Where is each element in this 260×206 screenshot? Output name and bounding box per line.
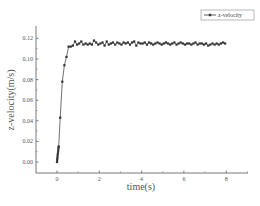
data-point-marker: [91, 44, 93, 46]
data-point-marker: [142, 42, 144, 44]
data-point-marker: [144, 41, 146, 43]
x-tick-label: 0: [56, 176, 59, 182]
legend-label: z-velocity: [218, 12, 242, 18]
data-point-marker: [70, 46, 72, 48]
data-point-marker: [95, 41, 97, 43]
data-point-marker: [154, 42, 156, 44]
data-point-marker: [190, 44, 192, 46]
series-z-velocity: [56, 39, 226, 163]
data-point-marker: [209, 44, 211, 46]
data-point-marker: [74, 40, 76, 42]
data-point-marker: [178, 42, 180, 44]
data-point-marker: [216, 42, 218, 44]
data-point-marker: [57, 149, 59, 151]
data-point-marker: [108, 44, 110, 46]
legend-marker-icon: [209, 14, 211, 16]
data-point-marker: [56, 159, 58, 161]
data-point-marker: [56, 157, 58, 159]
data-point-marker: [110, 42, 112, 44]
data-point-marker: [89, 42, 91, 44]
data-point-marker: [120, 44, 122, 46]
y-tick-label: 0.10: [23, 56, 34, 62]
y-tick-label: 0.04: [23, 118, 34, 124]
data-point-marker: [192, 42, 194, 44]
data-point-marker: [82, 44, 84, 46]
data-point-marker: [59, 117, 61, 119]
x-tick-label: 6: [182, 176, 185, 182]
data-point-marker: [161, 44, 163, 46]
data-point-marker: [194, 41, 196, 43]
data-point-marker: [68, 46, 70, 48]
data-point-marker: [57, 151, 59, 153]
data-point-marker: [87, 44, 89, 46]
data-point-marker: [58, 146, 60, 148]
data-point-marker: [214, 44, 216, 46]
data-point-marker: [159, 42, 161, 44]
y-tick-label: 0.00: [23, 159, 34, 165]
data-point-marker: [116, 41, 118, 43]
data-point-marker: [137, 41, 139, 43]
data-point-marker: [114, 44, 116, 46]
data-point-marker: [163, 42, 165, 44]
data-point-marker: [199, 42, 201, 44]
data-point-marker: [218, 44, 220, 46]
data-point-marker: [203, 44, 205, 46]
legend: z-velocity: [201, 10, 254, 20]
data-point-marker: [182, 42, 184, 44]
data-point-marker: [125, 42, 127, 44]
x-tick-label: 2: [98, 176, 101, 182]
data-point-marker: [180, 41, 182, 43]
data-point-marker: [93, 39, 95, 41]
y-tick-label: 0.08: [23, 77, 34, 83]
data-point-marker: [211, 42, 213, 44]
y-tick-label: 0.02: [23, 138, 34, 144]
data-point-marker: [72, 45, 74, 47]
y-tick-label: 0.06: [23, 97, 34, 103]
data-point-marker: [118, 42, 120, 44]
data-point-marker: [135, 45, 137, 47]
data-point-marker: [97, 44, 99, 46]
data-point-marker: [57, 155, 59, 157]
data-point-marker: [173, 41, 175, 43]
data-point-marker: [63, 64, 65, 66]
data-point-marker: [167, 42, 169, 44]
data-point-marker: [131, 41, 133, 43]
chart-canvas: 0.000.020.040.060.080.100.1202468 z-velo…: [0, 0, 260, 206]
data-point-marker: [171, 42, 173, 44]
data-point-marker: [123, 41, 125, 43]
data-point-marker: [222, 41, 224, 43]
data-point-marker: [148, 41, 150, 43]
data-point-marker: [152, 44, 154, 46]
data-point-marker: [169, 44, 171, 46]
data-point-marker: [175, 44, 177, 46]
data-point-marker: [165, 41, 167, 43]
data-point-marker: [188, 42, 190, 44]
data-point-marker: [76, 44, 78, 46]
data-point-marker: [85, 42, 87, 44]
x-axis-title: time(s): [127, 181, 155, 193]
data-point-marker: [65, 56, 67, 58]
data-point-marker: [205, 42, 207, 44]
x-tick-label: 8: [225, 176, 228, 182]
data-point-marker: [106, 40, 108, 42]
data-point-marker: [57, 153, 59, 155]
data-point-marker: [101, 41, 103, 43]
data-point-marker: [224, 42, 226, 44]
data-point-marker: [186, 42, 188, 44]
data-point-marker: [146, 44, 148, 46]
data-point-marker: [133, 40, 135, 42]
data-point-marker: [127, 41, 129, 43]
data-point-marker: [61, 81, 63, 83]
data-point-marker: [150, 42, 152, 44]
data-point-marker: [112, 41, 114, 43]
data-point-marker: [220, 42, 222, 44]
y-tick-label: 0.12: [23, 35, 34, 41]
series-line: [57, 41, 225, 163]
data-point-marker: [56, 161, 58, 163]
data-point-marker: [197, 44, 199, 46]
data-point-marker: [78, 42, 80, 44]
data-point-marker: [139, 42, 141, 44]
data-point-marker: [207, 45, 209, 47]
line-chart: 0.000.020.040.060.080.100.1202468 z-velo…: [0, 0, 260, 206]
data-point-marker: [184, 44, 186, 46]
